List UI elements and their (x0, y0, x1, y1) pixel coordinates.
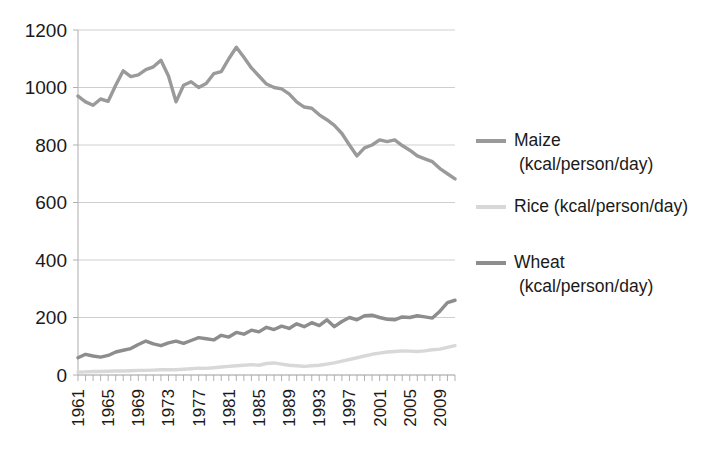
x-tick-label-1969: 1969 (129, 389, 148, 427)
x-tick-label-1989: 1989 (280, 389, 299, 427)
y-tick-label-1000: 1000 (25, 77, 67, 98)
y-tick-label-800: 800 (35, 135, 67, 156)
y-tick-label-0: 0 (56, 365, 67, 386)
figure-background (0, 0, 720, 457)
x-tick-label-2001: 2001 (371, 389, 390, 427)
legend-unit-wheat: (kcal/person/day) (519, 276, 653, 296)
x-tick-label-1973: 1973 (159, 389, 178, 427)
y-tick-label-1200: 1200 (25, 20, 67, 41)
line-chart-figure: 020040060080010001200 196119651969197319… (0, 0, 720, 457)
x-tick-label-1993: 1993 (310, 389, 329, 427)
legend-label-rice: Rice (kcal/person/day) (514, 196, 688, 216)
y-tick-label-200: 200 (35, 307, 67, 328)
x-tick-label-2009: 2009 (431, 389, 450, 427)
x-tick-label-1997: 1997 (340, 389, 359, 427)
x-tick-label-1977: 1977 (190, 389, 209, 427)
x-tick-label-2005: 2005 (401, 389, 420, 427)
legend-label-maize: Maize (514, 130, 561, 150)
y-tick-label-400: 400 (35, 250, 67, 271)
x-tick-label-1961: 1961 (69, 389, 88, 427)
y-tick-label-600: 600 (35, 192, 67, 213)
x-tick-label-1981: 1981 (220, 389, 239, 427)
legend-label-wheat: Wheat (514, 252, 565, 272)
x-tick-label-1965: 1965 (99, 389, 118, 427)
x-tick-label-1985: 1985 (250, 389, 269, 427)
legend-unit-maize: (kcal/person/day) (519, 154, 653, 174)
